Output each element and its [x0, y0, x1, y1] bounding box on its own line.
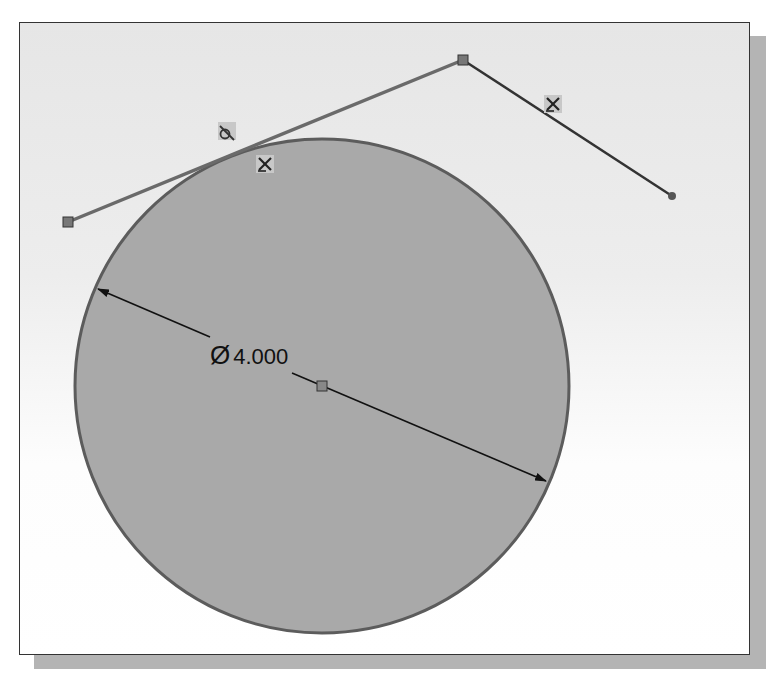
diameter-dimension-label[interactable]: Ø4.000: [210, 340, 288, 370]
fixed-line[interactable]: [463, 60, 672, 196]
diameter-symbol: Ø: [210, 340, 230, 370]
fixed-relation-icon[interactable]: [544, 95, 562, 113]
fixed-relation-icon[interactable]: [256, 155, 274, 173]
endpoint-apex-handle[interactable]: [458, 55, 468, 65]
tangent-relation-icon[interactable]: [218, 122, 236, 140]
diameter-value: 4.000: [233, 344, 288, 369]
center-point-handle[interactable]: [317, 381, 327, 391]
endpoint-left-handle[interactable]: [63, 217, 73, 227]
sketch-canvas[interactable]: Ø4.000: [0, 0, 777, 681]
endpoint-right-handle[interactable]: [668, 192, 676, 200]
